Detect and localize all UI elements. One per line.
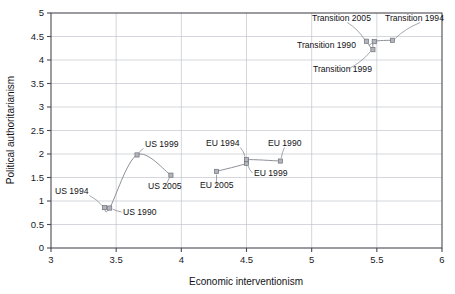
x-tick-label: 3 [48, 254, 53, 265]
point-label: EU 1990 [268, 138, 302, 148]
label-leader-line [369, 43, 372, 45]
point-label: Transition 1994 [385, 13, 444, 23]
point-label: Transition 2005 [312, 13, 371, 23]
y-tick-label: 5 [39, 7, 44, 18]
data-point-marker: Transition 2005 (5.42, 4.4) [364, 39, 368, 43]
point-label: US 1994 [55, 186, 89, 196]
label-leader-line [395, 23, 420, 39]
y-tick-label: 4 [39, 54, 44, 65]
data-point-marker: US 1994 (3.41, 0.86) [102, 205, 106, 209]
y-tick-label: 3.5 [31, 78, 44, 89]
label-leader-line [89, 196, 102, 206]
point-label: US 2005 [148, 181, 182, 191]
x-axis-title: Economic interventionism [189, 276, 303, 287]
point-label: US 1999 [145, 139, 179, 149]
point-label: EU 2005 [200, 180, 234, 190]
x-tick-label: 5.5 [370, 254, 383, 265]
point-label: US 1990 [123, 207, 157, 217]
y-tick-label: 1 [39, 195, 44, 206]
x-tick-label: 3.5 [110, 254, 123, 265]
y-tick-label: 4.5 [31, 31, 44, 42]
series-line-transition [366, 40, 392, 49]
y-tick-label: 1.5 [31, 172, 44, 183]
data-point-marker: Transition 1999 (5.47, 4.22) [371, 48, 375, 52]
label-leader-line [248, 166, 252, 173]
data-point-marker: US 1990 (3.45, 0.85) [108, 206, 112, 210]
label-leader-line [281, 148, 284, 159]
point-label: EU 1994 [206, 138, 240, 148]
data-point-marker: US 2005 (3.92, 1.55) [169, 173, 173, 177]
y-tick-label: 3 [39, 101, 44, 112]
data-point-marker: EU 1990 (4.76, 1.85) [278, 159, 282, 163]
point-label: EU 1999 [254, 168, 288, 178]
x-axis-ticks: 33.544.555.56 [48, 248, 444, 265]
data-point-marker: US 1999 (3.66, 1.98) [135, 153, 139, 157]
x-tick-label: 4.5 [240, 254, 253, 265]
x-tick-label: 6 [439, 254, 444, 265]
data-point-marker: Transition 1990 (5.48, 4.39) [372, 40, 376, 44]
x-tick-label: 5 [309, 254, 314, 265]
y-tick-label: 0 [39, 242, 44, 253]
grid-lines [51, 13, 442, 248]
point-label: Transition 1999 [313, 64, 372, 74]
label-leader-line [113, 209, 122, 212]
label-leader-line [240, 148, 245, 157]
y-axis-ticks: 00.511.522.533.544.55 [31, 7, 51, 253]
data-point-marker: EU 2005 (4.27, 1.63) [214, 169, 218, 173]
label-leader-line [139, 149, 143, 153]
y-tick-label: 0.5 [31, 219, 44, 230]
y-tick-label: 2.5 [31, 125, 44, 136]
x-tick-label: 4 [179, 254, 184, 265]
y-tick-label: 2 [39, 148, 44, 159]
point-labels: US 1994US 1990US 1999US 2005EU 1994EU 19… [55, 13, 444, 217]
y-axis-title: Political authoritarianism [5, 76, 16, 184]
scatter-chart: 33.544.555.56 00.511.522.533.544.55 US 1… [0, 0, 455, 294]
data-point-marker: EU 1994 (4.5, 1.88) [244, 158, 248, 162]
point-label: Transition 1990 [297, 40, 356, 50]
chart-container: 33.544.555.56 00.511.522.533.544.55 US 1… [0, 0, 455, 294]
data-point-marker: Transition 1994 (5.62, 4.42) [390, 38, 394, 42]
